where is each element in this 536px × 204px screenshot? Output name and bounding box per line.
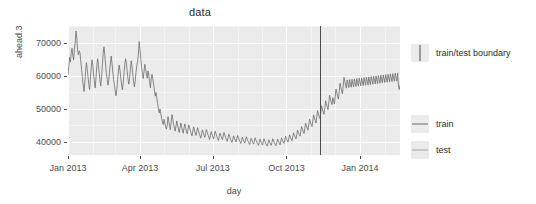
x-tick-label: Apr 2013 [122, 163, 159, 173]
legend-key-stroke [412, 124, 428, 125]
vline-train-test-boundary [320, 26, 321, 155]
series-path [68, 31, 400, 146]
legend-block-1: traintest [411, 115, 454, 167]
ggplot-chart: data ahead.3 40000500006000070000 Jan 20… [0, 0, 536, 204]
legend-label: train [436, 119, 454, 129]
series-line-ahead3 [68, 26, 400, 155]
x-tick-mark [213, 156, 214, 159]
legend-label: train/test boundary [436, 48, 511, 58]
x-tick-label: Oct 2013 [268, 163, 305, 173]
y-tick-label: 70000 [36, 38, 61, 48]
x-axis-label: day [68, 186, 400, 196]
chart-title: data [0, 6, 400, 18]
legend-item-train[interactable]: train [411, 115, 454, 133]
y-tick-mark [64, 109, 67, 110]
x-tick-mark [286, 156, 287, 159]
y-tick-label: 40000 [36, 137, 61, 147]
y-tick-mark [64, 142, 67, 143]
legend-item-test[interactable]: test [411, 141, 454, 159]
y-tick-label: 60000 [36, 71, 61, 81]
y-axis-label: ahead.3 [14, 25, 24, 58]
plot-panel [68, 26, 400, 155]
legend-item-train-test-boundary[interactable]: train/test boundary [411, 44, 511, 62]
x-tick-label: Jul 2013 [196, 163, 230, 173]
x-tick-mark [360, 156, 361, 159]
x-tick-mark [68, 156, 69, 159]
legend-key-stroke [420, 45, 421, 61]
legend-key-line-icon [411, 141, 429, 159]
x-tick-mark [140, 156, 141, 159]
legend-key-vline-icon [411, 44, 429, 62]
x-tick-label: Jan 2013 [49, 163, 86, 173]
legend-key-stroke [412, 150, 428, 151]
y-tick-label: 50000 [36, 104, 61, 114]
legend-label: test [436, 145, 451, 155]
legend-key-line-icon [411, 115, 429, 133]
y-tick-mark [64, 76, 67, 77]
x-tick-label: Jan 2014 [341, 163, 378, 173]
y-tick-mark [64, 43, 67, 44]
legend-block-0: train/test boundary [411, 44, 511, 70]
